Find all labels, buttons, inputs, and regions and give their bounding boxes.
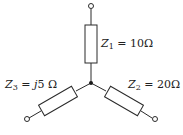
z2-symbol: Z <box>128 78 136 91</box>
z2-inner-wire <box>91 83 106 91</box>
z3-label: Z3 = j5 Ω <box>5 79 57 92</box>
z1-label: Z1 = 10Ω <box>101 38 153 51</box>
z2-subscript: 2 <box>136 83 141 92</box>
z2-equals: = <box>144 78 153 91</box>
wye-circuit-diagram <box>0 0 183 135</box>
branch-z1 <box>85 4 97 84</box>
z3-value: 5 <box>37 78 44 91</box>
z1-value: 10 <box>130 37 144 50</box>
z1-terminal <box>89 4 94 9</box>
z3-symbol: Z <box>5 78 13 91</box>
z1-symbol: Z <box>101 37 109 50</box>
z3-terminal <box>25 117 30 122</box>
z1-resistor <box>85 25 97 63</box>
z2-value: 20 <box>157 78 171 91</box>
z3-equals: = <box>21 78 30 91</box>
z2-outer-wire <box>141 111 152 118</box>
z3-inner-wire <box>76 83 91 91</box>
z1-subscript: 1 <box>109 42 114 51</box>
z2-label: Z2 = 20Ω <box>128 79 180 92</box>
z1-equals: = <box>117 37 126 50</box>
junction-node <box>89 81 93 85</box>
z2-terminal <box>153 117 158 122</box>
z3-outer-wire <box>29 111 41 118</box>
z1-unit: Ω <box>144 37 153 50</box>
z3-unit: Ω <box>48 78 57 91</box>
z3-subscript: 3 <box>13 83 18 92</box>
z2-unit: Ω <box>171 78 180 91</box>
